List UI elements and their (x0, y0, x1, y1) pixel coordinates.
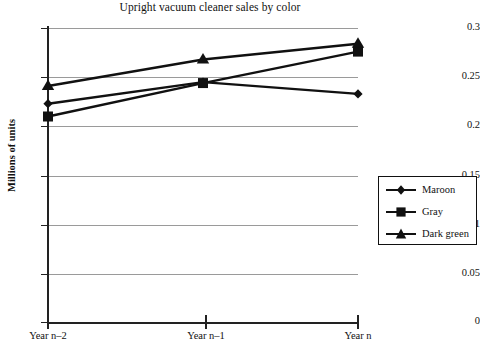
data-point (43, 99, 52, 108)
legend: Maroon Gray Dark green (378, 176, 477, 245)
legend-item-gray[interactable]: Gray (379, 200, 476, 223)
data-point (43, 112, 53, 122)
data-point (353, 89, 362, 98)
legend-label-dark-green: Dark green (422, 228, 469, 239)
legend-label-gray: Gray (422, 206, 443, 217)
data-point (353, 47, 363, 57)
triangle-marker-icon (384, 226, 418, 242)
data-point (352, 37, 364, 47)
legend-item-maroon[interactable]: Maroon (379, 178, 476, 201)
square-marker-icon (384, 204, 418, 220)
data-point (198, 78, 208, 88)
chart-figure: Upright vacuum cleaner sales by color 0.… (0, 0, 480, 358)
legend-label-maroon: Maroon (422, 184, 455, 195)
legend-item-dark-green[interactable]: Dark green (379, 222, 476, 245)
diamond-marker-icon (384, 182, 418, 198)
